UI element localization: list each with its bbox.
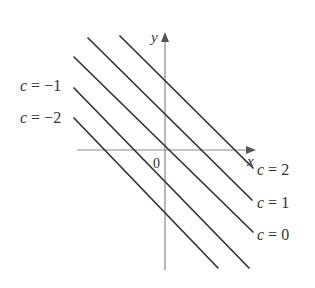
label-c-1: c = 1 [257,194,289,211]
label-c-0-var: c [257,226,264,243]
label-c-1-value: = 1 [264,194,289,211]
x-axis-label: x [246,153,254,169]
label-c-neg1-var: c [20,77,27,94]
label-c-0: c = 0 [257,226,289,243]
line-c-neg1 [74,88,249,268]
label-c-2-value: = 2 [264,161,289,178]
label-c-neg1-value: = −1 [27,77,61,94]
level-curves-diagram: y x 0 c = −1 c = −2 c = 2 c = 1 c = 0 [0,0,315,288]
axes [77,32,256,270]
label-c-2: c = 2 [257,161,289,178]
label-c-neg2-var: c [20,109,27,126]
line-c-neg2 [74,118,218,268]
origin-label: 0 [153,156,160,171]
line-c-0 [74,57,253,232]
label-c-neg2: c = −2 [20,109,61,126]
line-c-1 [88,38,252,200]
label-c-0-value: = 0 [264,226,289,243]
line-c-2 [120,36,253,168]
label-c-neg2-value: = −2 [27,109,61,126]
level-lines [74,36,253,268]
label-c-neg1: c = −1 [20,77,61,94]
y-axis-label: y [149,29,158,45]
y-axis-arrow-icon [161,32,169,42]
label-c-1-var: c [257,194,264,211]
label-c-2-var: c [257,161,264,178]
